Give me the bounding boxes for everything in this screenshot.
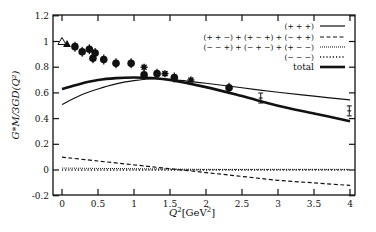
legend-label: (− − −) <box>285 53 315 62</box>
data-point-circle <box>78 48 86 56</box>
y-tick-label: 0.8 <box>35 62 50 72</box>
legend-label: (+ + +) <box>285 22 315 31</box>
x-tick-label: 4 <box>347 199 353 209</box>
y-tick-label: 0.6 <box>35 88 50 98</box>
y-tick-label: 0.4 <box>35 114 50 124</box>
x-axis-label: Q2[GeV2] <box>169 206 215 218</box>
y-tick-label: -0.2 <box>32 191 49 201</box>
x-tick-label: 2.5 <box>235 199 250 209</box>
data-point-circle <box>127 60 135 68</box>
data-point-circle <box>112 60 120 68</box>
y-axis-label: G*M/3GD(Q²) <box>10 70 21 139</box>
curves <box>62 77 350 185</box>
data-point-circle <box>89 54 97 62</box>
x-tick-label: 0.5 <box>91 199 106 209</box>
curve-dashed <box>62 157 350 185</box>
data-point-open-triangle <box>58 38 66 45</box>
x-tick-label: 3 <box>275 199 281 209</box>
legend-label: (− − +) + (− + −) + (+ − −) <box>203 43 314 52</box>
chart-container: 00.511.522.533.54 -0.200.20.40.60.811.2 … <box>0 0 376 232</box>
data-point-circle <box>140 71 148 79</box>
chart-svg: 00.511.522.533.54 -0.200.20.40.60.811.2 … <box>0 0 376 232</box>
legend: (+ + +)(+ + −) + (+ − +) + (− + +)(− − +… <box>203 22 345 72</box>
y-tick-label: 1.2 <box>35 11 49 21</box>
y-tick-label: 1 <box>43 37 49 47</box>
data-point-circle <box>71 43 79 51</box>
legend-label: (+ + −) + (+ − +) + (− + +) <box>203 33 314 42</box>
x-tick-label: 1 <box>131 199 137 209</box>
data-point-circle <box>153 70 161 78</box>
y-tick-label: 0 <box>43 165 49 175</box>
data-point-star <box>161 70 168 77</box>
data-point-circle <box>171 74 179 82</box>
data-point-circle <box>100 56 108 64</box>
data-point-circle <box>225 84 233 92</box>
legend-label: total <box>293 62 314 72</box>
data-point-star <box>187 77 194 84</box>
curve-solid-thick <box>62 77 350 121</box>
data-point-star <box>141 64 148 71</box>
y-tick-label: 0.2 <box>35 139 49 149</box>
data-point-errorbar <box>347 106 352 116</box>
x-tick-label: 3.5 <box>307 199 322 209</box>
curve-dotted <box>62 168 350 169</box>
x-tick-label: 0 <box>59 199 65 209</box>
curve-solid-thin <box>62 79 350 105</box>
